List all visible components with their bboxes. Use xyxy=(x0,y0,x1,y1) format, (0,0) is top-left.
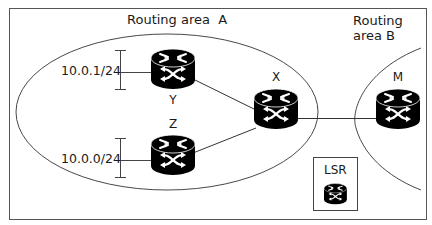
routing-area-a-label: Routing area A xyxy=(127,13,227,27)
router-y-label: Y xyxy=(163,93,183,107)
router-m-icon[interactable] xyxy=(376,89,420,129)
router-y-icon[interactable] xyxy=(151,49,195,89)
router-z-icon[interactable] xyxy=(151,135,195,175)
link-z-x xyxy=(193,128,256,153)
link-y-x xyxy=(193,79,256,110)
router-m-label: M xyxy=(388,70,408,84)
routing-area-b-label-line2: area B xyxy=(353,29,395,43)
lsr-legend-label: LSR xyxy=(324,163,347,177)
subnet-label-y: 10.0.1/24 xyxy=(61,64,121,78)
routing-area-b-label-line1: Routing xyxy=(353,14,403,28)
lsr-legend-icon xyxy=(324,184,347,205)
router-x-icon[interactable] xyxy=(254,89,298,129)
router-x-label: X xyxy=(266,70,286,84)
router-z-label: Z xyxy=(163,117,183,131)
subnet-label-z: 10.0.0/24 xyxy=(61,152,121,166)
